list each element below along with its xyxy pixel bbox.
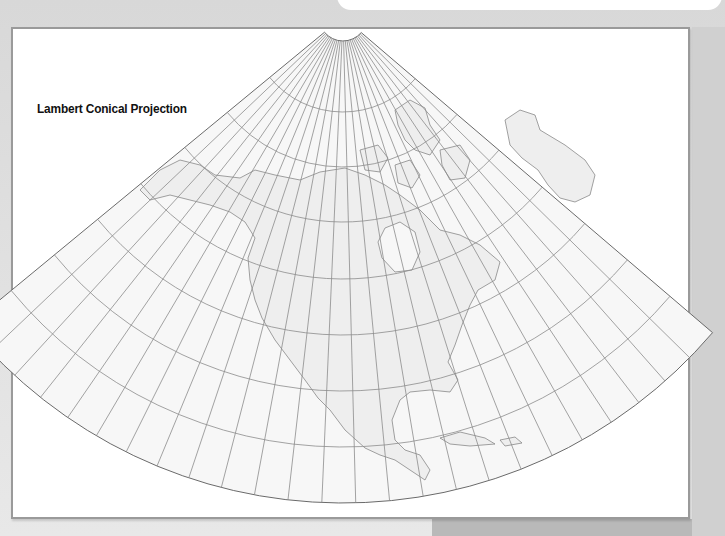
map-title: Lambert Conical Projection — [37, 101, 187, 116]
lambert-conic-map — [0, 0, 725, 536]
